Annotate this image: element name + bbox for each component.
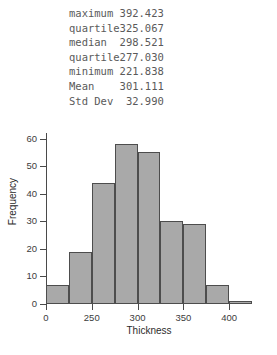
y-axis-tick-label: 40 bbox=[26, 188, 37, 199]
statistics-table-body: maximum392.423quartile325.067median298.5… bbox=[69, 6, 164, 108]
y-axis-tick-label: 20 bbox=[26, 243, 37, 254]
y-axis-tick-label: 60 bbox=[26, 133, 37, 144]
statistic-value: 32.990 bbox=[120, 94, 164, 109]
y-axis-title: Frequency bbox=[7, 157, 18, 247]
x-axis-tick: 350 bbox=[183, 304, 184, 310]
histogram-bar bbox=[92, 183, 115, 304]
x-axis-tick: 300 bbox=[138, 304, 139, 310]
histogram-bar bbox=[46, 285, 69, 304]
x-axis-tick-label: 350 bbox=[175, 312, 191, 323]
x-axis-tick-label: 400 bbox=[221, 312, 237, 323]
x-axis-tick-label: 250 bbox=[84, 312, 100, 323]
y-axis-tick-label: 10 bbox=[26, 270, 37, 281]
statistics-row: quartile277.030 bbox=[69, 50, 164, 65]
statistic-value: 277.030 bbox=[120, 50, 164, 65]
histogram-bar bbox=[229, 301, 252, 304]
histogram-bar bbox=[138, 152, 161, 304]
statistics-row: Std Dev32.990 bbox=[69, 94, 164, 109]
y-axis-tick-label: 30 bbox=[26, 215, 37, 226]
statistic-label: maximum bbox=[69, 6, 120, 21]
statistics-row: quartile325.067 bbox=[69, 21, 164, 36]
statistic-value: 301.111 bbox=[120, 79, 164, 94]
histogram-bars bbox=[46, 133, 252, 304]
statistic-label: Mean bbox=[69, 79, 120, 94]
y-axis-tick-label: 0 bbox=[32, 298, 37, 309]
statistic-value: 392.423 bbox=[120, 6, 164, 21]
statistic-label: Std Dev bbox=[69, 94, 120, 109]
statistic-value: 221.838 bbox=[120, 64, 164, 79]
x-axis-tick-label: 300 bbox=[130, 312, 146, 323]
statistics-row: minimum221.838 bbox=[69, 64, 164, 79]
x-axis-tick: 250 bbox=[92, 304, 93, 310]
histogram-bar bbox=[115, 144, 138, 304]
statistic-label: median bbox=[69, 35, 120, 50]
statistic-value: 298.521 bbox=[120, 35, 164, 50]
histogram-chart: 0102030405060 0250300350400 Thickness Fr… bbox=[0, 118, 277, 355]
y-axis-tick-label: 50 bbox=[26, 160, 37, 171]
histogram-bar bbox=[206, 285, 229, 304]
x-axis-tick: 400 bbox=[229, 304, 230, 310]
statistics-row: Mean301.111 bbox=[69, 79, 164, 94]
statistic-label: quartile bbox=[69, 21, 120, 36]
statistic-value: 325.067 bbox=[120, 21, 164, 36]
histogram-bar bbox=[183, 224, 206, 304]
statistics-row: median298.521 bbox=[69, 35, 164, 50]
statistics-row: maximum392.423 bbox=[69, 6, 164, 21]
histogram-bar bbox=[69, 252, 92, 304]
statistics-summary-table: maximum392.423quartile325.067median298.5… bbox=[69, 6, 164, 108]
histogram-bar bbox=[160, 221, 183, 304]
x-axis-title: Thickness bbox=[46, 325, 252, 336]
x-axis-tick-label: 0 bbox=[43, 312, 48, 323]
statistic-label: quartile bbox=[69, 50, 120, 65]
x-axis-tick: 0 bbox=[46, 304, 47, 310]
statistic-label: minimum bbox=[69, 64, 120, 79]
